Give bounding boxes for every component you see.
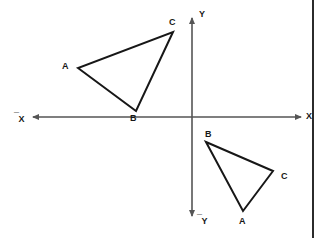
page-edge-rule — [312, 0, 314, 238]
vertex-label-triangle-preimage-a: A — [62, 62, 69, 71]
axis-label-y-positive: Y — [199, 10, 205, 19]
axis-letter: Y — [201, 216, 207, 226]
axis-letter: Y — [199, 9, 205, 19]
vertex-label-triangle-preimage-c: C — [169, 18, 176, 27]
axis-letter: X — [18, 114, 24, 124]
vertex-label-triangle-image-b: B — [205, 130, 212, 139]
triangle-image — [206, 142, 273, 211]
vertex-label-triangle-preimage-b: B — [130, 114, 137, 123]
vertex-label-triangle-image-a: A — [239, 217, 246, 226]
vertex-label-triangle-image-c: C — [281, 172, 288, 181]
figure-canvas — [0, 0, 321, 238]
triangle-preimage — [78, 32, 173, 111]
axis-label-x-negative: ¯X — [14, 112, 25, 124]
geometry-figure: X ¯X Y ¯Y ABCBCA — [0, 0, 321, 238]
axis-label-y-negative: ¯Y — [197, 214, 208, 226]
shape-layer — [78, 32, 273, 211]
